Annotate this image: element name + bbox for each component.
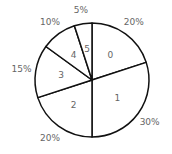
slice-percent-label: 30%: [140, 117, 160, 127]
slice-percent-label: 20%: [124, 17, 144, 27]
slice-category-label: 3: [58, 70, 64, 80]
slice-category-label: 4: [71, 50, 77, 60]
pie-chart: 020%130%220%315%410%55%: [0, 0, 172, 154]
slice-percent-label: 20%: [40, 133, 60, 143]
pie-slices: [35, 23, 149, 137]
slice-percent-label: 10%: [40, 17, 60, 27]
slice-category-label: 0: [108, 50, 114, 60]
slice-category-label: 5: [84, 44, 90, 54]
slice-percent-label: 15%: [12, 64, 32, 74]
slice-category-label: 1: [114, 93, 120, 103]
slice-category-label: 2: [71, 100, 77, 110]
slice-percent-label: 5%: [74, 5, 89, 15]
